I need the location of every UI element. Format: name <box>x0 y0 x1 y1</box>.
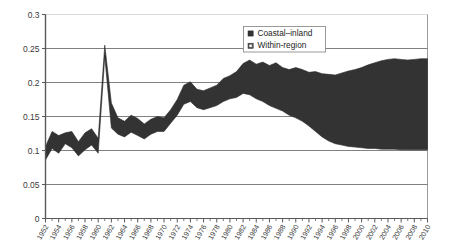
x-tick-label: 1968 <box>140 223 156 241</box>
x-tick-label: 1974 <box>180 223 196 241</box>
x-tick-label: 1984 <box>245 223 261 241</box>
legend-item-within-region: Within-region <box>248 40 307 50</box>
x-axis-ticks: 1952195419561958196019621964196619681970… <box>35 219 433 242</box>
x-tick-label: 1956 <box>61 223 77 241</box>
chart-canvas: 00.050.10.150.20.250.3 19521954195619581… <box>0 0 450 247</box>
x-tick-label: 1988 <box>272 223 288 241</box>
legend-swatch-icon <box>248 31 253 36</box>
chart-legend: Coastal–inlandWithin-region <box>244 27 326 53</box>
y-tick-label: 0 <box>35 214 40 224</box>
x-tick-label: 1996 <box>324 223 340 241</box>
x-tick-label: 2006 <box>390 223 406 241</box>
x-tick-label: 1990 <box>285 223 301 241</box>
x-tick-label: 1960 <box>87 223 103 241</box>
y-tick-label: 0.15 <box>23 112 40 122</box>
y-tick-label: 0.2 <box>28 78 40 88</box>
y-axis-ticks: 00.050.10.150.20.250.3 <box>23 10 46 224</box>
legend-label: Coastal–inland <box>258 28 313 38</box>
y-tick-label: 0.1 <box>28 146 40 156</box>
x-tick-label: 2004 <box>377 223 393 241</box>
x-tick-label: 1994 <box>311 223 327 241</box>
x-tick-label: 1970 <box>153 223 169 241</box>
x-tick-label: 1954 <box>48 223 64 241</box>
x-tick-label: 1976 <box>193 223 209 241</box>
x-tick-label: 2008 <box>403 223 419 241</box>
x-tick-label: 2010 <box>417 223 433 241</box>
x-tick-label: 1982 <box>232 223 248 241</box>
y-tick-label: 0.05 <box>23 180 40 190</box>
x-tick-label: 1962 <box>100 223 116 241</box>
x-tick-label: 1980 <box>219 223 235 241</box>
x-tick-label: 1964 <box>114 223 130 241</box>
y-tick-label: 0.3 <box>28 10 40 20</box>
x-tick-label: 2002 <box>364 223 380 241</box>
legend-item-coastal-inland: Coastal–inland <box>248 28 313 38</box>
x-tick-label: 2000 <box>351 223 367 241</box>
x-tick-label: 1986 <box>259 223 275 241</box>
legend-label: Within-region <box>258 40 307 50</box>
x-tick-label: 1978 <box>206 223 222 241</box>
area-chart: 00.050.10.150.20.250.3 19521954195619581… <box>0 0 450 247</box>
y-tick-label: 0.25 <box>23 44 40 54</box>
x-tick-label: 1972 <box>166 223 182 241</box>
legend-swatch-inner-icon <box>249 45 251 47</box>
x-tick-label: 1998 <box>338 223 354 241</box>
x-tick-label: 1966 <box>127 223 143 241</box>
x-tick-label: 1952 <box>35 223 51 241</box>
x-tick-label: 1958 <box>74 223 90 241</box>
x-tick-label: 1992 <box>298 223 314 241</box>
